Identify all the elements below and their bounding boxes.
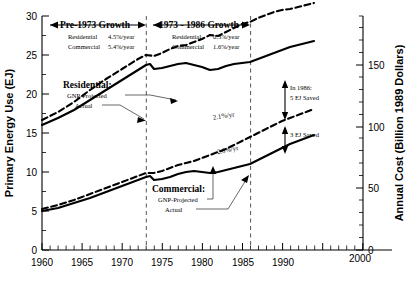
ytick-label: 10: [26, 167, 38, 178]
rate-commercial-annotation: 2.0%/yr: [216, 144, 239, 156]
arrow-left-icon: [50, 22, 58, 29]
y2tick-label: 150: [368, 60, 385, 71]
era-divider-lines: [146, 16, 250, 250]
xtick-label: 1960: [31, 257, 54, 268]
arrow-up-icon: [282, 80, 288, 88]
xtick-label: 1980: [191, 257, 214, 268]
era-right-row1-value: 1.6%/year: [213, 43, 240, 50]
xtick-label: 1985: [232, 257, 255, 268]
era-left-row0-label: Residential: [68, 33, 97, 40]
x-axis-ticks: [42, 243, 363, 250]
era-right-row1-label: Commercial: [172, 43, 204, 50]
residential-label-projected: GNP-Projected: [67, 92, 107, 99]
xtick-label: 1970: [111, 257, 134, 268]
residential-series-label: Residential: GNP-Projected Actual: [63, 80, 178, 123]
era-left-row0-value: 4.5%/year: [108, 33, 135, 40]
era-left-title: Pre-1973 Growth: [60, 20, 131, 30]
era-right-title: 1973 - 1986 Growth: [159, 20, 239, 30]
savings-residential-line2: 5 EJ Saved: [290, 94, 320, 101]
leader-arrow-icon: [241, 175, 249, 183]
arrow-right-icon: [138, 22, 146, 29]
commercial-label-title: Commercial:: [152, 184, 205, 194]
era-right-row0-value: 0.3%/year: [213, 33, 240, 40]
era-left-row1-label: Commercial: [68, 43, 100, 50]
chart-canvas: 30 25 20 15 10 5 0 Primary Energy Use (E…: [0, 0, 413, 285]
commercial-series-label: Commercial: GNP-Projected Actual: [152, 166, 249, 213]
y-axis-left-title: Primary Energy Use (EJ): [3, 68, 15, 197]
xtick-label: 2000: [349, 253, 372, 264]
y-axis-right-title: Annual Cost (Billion 1989 Dollars): [393, 44, 405, 221]
rate-residential-annotation: 2.1%/yr: [212, 110, 235, 120]
residential-label-title: Residential:: [63, 80, 112, 90]
energy-use-chart: 30 25 20 15 10 5 0 Primary Energy Use (E…: [0, 0, 413, 285]
xtick-label: 1965: [71, 257, 94, 268]
xtick-label: 1975: [151, 257, 174, 268]
era-right-row0-label: Residential: [172, 33, 201, 40]
ytick-label: 30: [26, 11, 38, 22]
ytick-label: 15: [26, 128, 38, 139]
leader-arrow-icon: [170, 98, 178, 104]
y2tick-label: 100: [368, 122, 385, 133]
ytick-label: 0: [31, 245, 37, 256]
ytick-label: 5: [31, 206, 37, 217]
y-axis-right-ticks: [356, 16, 363, 250]
y-axis-right-tick-labels: 0 50 100 150: [368, 60, 385, 256]
y2tick-label: 50: [368, 183, 380, 194]
commercial-label-projected: GNP-Projected: [158, 196, 198, 203]
arrow-up-icon: [282, 126, 288, 134]
xtick-label: 1990: [272, 257, 295, 268]
era-annotation-left: Pre-1973 Growth Residential 4.5%/year Co…: [50, 20, 146, 50]
savings-residential-line1: In 1986:: [290, 84, 312, 91]
ytick-label: 25: [26, 50, 38, 61]
era-left-row1-value: 5.4%/year: [108, 43, 135, 50]
ytick-label: 20: [26, 89, 38, 100]
curve-commercial-projected: [42, 109, 314, 209]
leader-arrow-icon: [210, 166, 217, 174]
era-annotation-right: 1973 - 1986 Growth Residential 0.3%/year…: [153, 20, 250, 50]
residential-label-actual: Actual: [75, 102, 93, 109]
x-axis-tick-labels: 1960 1965 1970 1975 1980 1985 1990 2000: [31, 253, 372, 268]
arrow-down-icon: [282, 146, 288, 154]
commercial-label-actual: Actual: [165, 206, 183, 213]
y-axis-left-tick-labels: 30 25 20 15 10 5 0: [26, 11, 38, 256]
y-axis-left-ticks: [42, 16, 49, 250]
axis-frame: [42, 16, 392, 250]
leader-arrow-icon: [137, 117, 146, 123]
savings-commercial-label: 3 EJ Saved: [290, 131, 320, 138]
